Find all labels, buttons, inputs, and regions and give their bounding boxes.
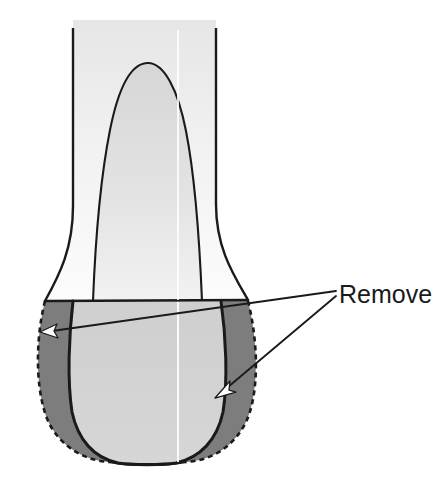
figure-canvas: Remove xyxy=(0,0,437,483)
shoulder-line xyxy=(45,300,248,301)
tooth-diagram-svg xyxy=(0,0,437,483)
remove-label: Remove xyxy=(339,280,432,308)
shoulder-margin-line xyxy=(45,300,248,301)
